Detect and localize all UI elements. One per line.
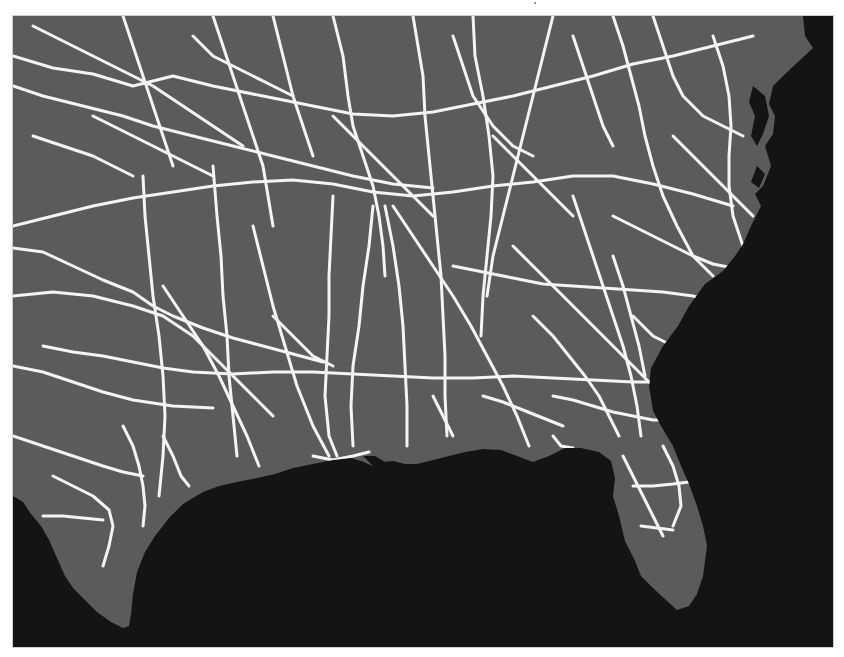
- road-network-map[interactable]: [13, 16, 834, 648]
- map-frame[interactable]: [12, 15, 834, 648]
- stray-pixel: [534, 2, 536, 4]
